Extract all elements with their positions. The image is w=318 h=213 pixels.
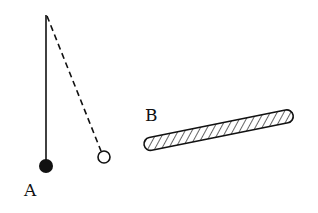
- label-a: A: [23, 180, 37, 200]
- ball-a: [39, 159, 53, 173]
- pendulum-diagram: A B: [0, 0, 318, 213]
- ball-displaced: [98, 151, 110, 163]
- label-b: B: [145, 105, 158, 125]
- rod-b: [143, 109, 295, 152]
- pendulum-string-displaced: [47, 16, 101, 151]
